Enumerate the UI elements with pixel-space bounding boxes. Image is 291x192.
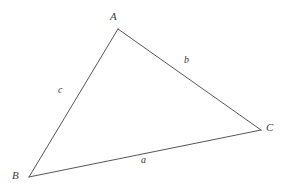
triangle-side-b-line	[118, 29, 261, 130]
triangle-side-c-line	[29, 29, 118, 177]
side-label-b: b	[184, 55, 189, 65]
triangle-diagram: A B C a b c	[0, 0, 291, 192]
vertex-label-b: B	[12, 170, 19, 181]
vertex-label-a: A	[110, 11, 117, 22]
side-label-c: c	[58, 85, 62, 95]
vertex-label-c: C	[266, 122, 273, 133]
side-label-a: a	[141, 155, 146, 165]
